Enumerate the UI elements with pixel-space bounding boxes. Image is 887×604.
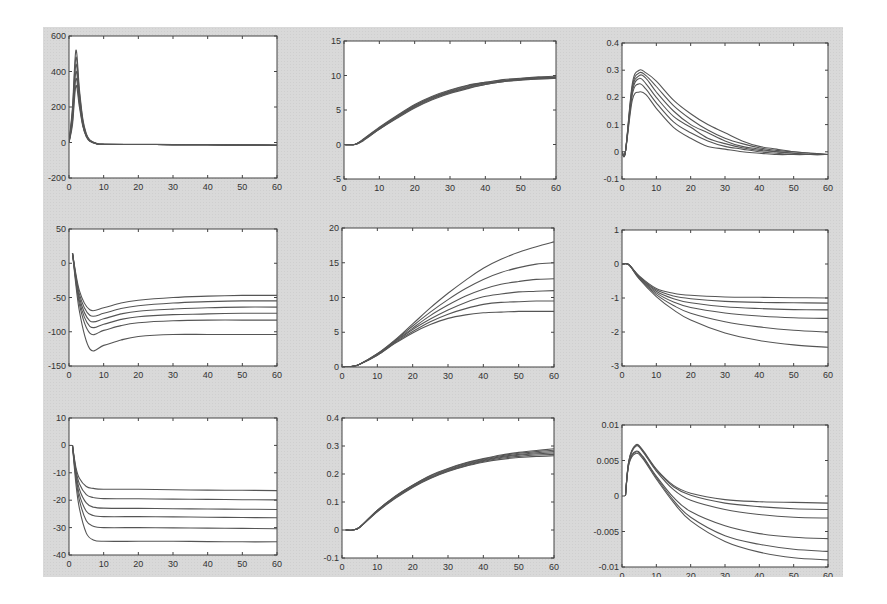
- y-tick-label: 0: [61, 440, 66, 450]
- y-tick-label: -0.1: [603, 174, 619, 184]
- x-tick-label: 60: [823, 183, 833, 193]
- y-tick-label: 0.005: [596, 456, 619, 466]
- y-tick-label: 0.1: [606, 120, 619, 130]
- x-tick-label: 30: [720, 571, 730, 577]
- y-tick-label: 15: [331, 36, 341, 46]
- y-tick-label: 10: [329, 293, 339, 303]
- x-tick-label: 0: [619, 183, 624, 193]
- x-tick-label: 40: [478, 562, 488, 572]
- y-tick-label: 15: [329, 258, 339, 268]
- x-tick-label: 40: [203, 559, 213, 569]
- y-tick-label: -0.1: [323, 553, 339, 563]
- y-tick-label: 0.1: [326, 497, 339, 507]
- y-tick-label: 0.4: [606, 38, 619, 48]
- x-tick-label: 0: [619, 571, 624, 577]
- x-tick-label: 0: [339, 562, 344, 572]
- subplot-5: 010203040506005101520: [329, 223, 559, 381]
- x-tick-label: 50: [514, 562, 524, 572]
- x-tick-label: 60: [272, 182, 282, 192]
- y-tick-label: -100: [48, 327, 66, 337]
- x-tick-label: 20: [408, 371, 418, 381]
- x-tick-label: 60: [823, 370, 833, 380]
- y-tick-label: 0: [334, 525, 339, 535]
- x-tick-label: 20: [133, 370, 143, 380]
- y-tick-label: -30: [53, 523, 66, 533]
- x-tick-label: 10: [372, 371, 382, 381]
- x-tick-label: 0: [66, 182, 71, 192]
- y-tick-label: -0.01: [598, 562, 619, 572]
- x-tick-label: 60: [549, 562, 559, 572]
- x-tick-label: 30: [168, 370, 178, 380]
- x-tick-label: 30: [720, 370, 730, 380]
- x-tick-label: 40: [480, 183, 490, 193]
- y-tick-label: 0: [614, 259, 619, 269]
- y-tick-label: -20: [53, 495, 66, 505]
- x-tick-label: 60: [272, 370, 282, 380]
- x-tick-label: 50: [237, 182, 247, 192]
- y-tick-label: 400: [51, 67, 66, 77]
- y-tick-label: 0: [614, 491, 619, 501]
- y-tick-label: 0.3: [606, 65, 619, 75]
- x-tick-label: 20: [410, 183, 420, 193]
- subplot-8: 0102030405060-0.100.10.20.30.4: [323, 413, 559, 572]
- x-tick-label: 50: [789, 370, 799, 380]
- x-tick-label: 20: [133, 559, 143, 569]
- x-tick-label: 40: [203, 370, 213, 380]
- x-tick-label: 40: [754, 571, 764, 577]
- x-tick-label: 10: [99, 559, 109, 569]
- subplot-2: 0102030405060-5051015: [331, 36, 561, 193]
- x-tick-label: 0: [341, 183, 346, 193]
- subplot-4: 0102030405060-150-100-50050: [48, 224, 282, 380]
- y-tick-label: -40: [53, 550, 66, 560]
- y-tick-label: 10: [56, 413, 66, 423]
- y-tick-label: 0.2: [326, 469, 339, 479]
- x-tick-label: 10: [99, 182, 109, 192]
- y-tick-label: 0: [614, 147, 619, 157]
- x-tick-label: 10: [651, 183, 661, 193]
- y-tick-label: -0.005: [593, 527, 619, 537]
- x-tick-label: 20: [408, 562, 418, 572]
- x-tick-label: 20: [133, 182, 143, 192]
- x-tick-label: 10: [372, 562, 382, 572]
- y-tick-label: -50: [53, 293, 66, 303]
- y-tick-label: 0: [61, 258, 66, 268]
- x-tick-label: 30: [168, 559, 178, 569]
- y-tick-label: 10: [331, 71, 341, 81]
- x-tick-label: 10: [651, 571, 661, 577]
- y-tick-label: -5: [333, 174, 341, 184]
- x-tick-label: 60: [272, 559, 282, 569]
- x-tick-label: 10: [99, 370, 109, 380]
- y-tick-label: 0: [61, 138, 66, 148]
- axes-box: [344, 41, 556, 179]
- y-tick-label: -10: [53, 468, 66, 478]
- x-tick-label: 0: [66, 370, 71, 380]
- x-tick-label: 50: [789, 183, 799, 193]
- x-tick-label: 50: [237, 370, 247, 380]
- x-tick-label: 60: [549, 371, 559, 381]
- y-tick-label: -200: [48, 173, 66, 183]
- y-tick-label: -2: [611, 327, 619, 337]
- y-tick-label: 20: [329, 223, 339, 233]
- x-tick-label: 60: [551, 183, 561, 193]
- x-tick-label: 30: [443, 371, 453, 381]
- y-tick-label: 0.2: [606, 92, 619, 102]
- y-tick-label: 600: [51, 31, 66, 41]
- x-tick-label: 40: [754, 183, 764, 193]
- x-tick-label: 30: [445, 183, 455, 193]
- x-tick-label: 40: [203, 182, 213, 192]
- subplot-6: 0102030405060-3-2-101: [611, 225, 833, 380]
- subplot-7: 0102030405060-40-30-20-10010: [53, 413, 282, 569]
- y-tick-label: 200: [51, 102, 66, 112]
- x-tick-label: 50: [789, 571, 799, 577]
- x-tick-label: 30: [168, 182, 178, 192]
- y-tick-label: 5: [336, 105, 341, 115]
- x-tick-label: 40: [478, 371, 488, 381]
- x-tick-label: 50: [514, 371, 524, 381]
- axes-box: [69, 418, 277, 555]
- axes-box: [622, 425, 828, 567]
- subplot-3: 0102030405060-0.100.10.20.30.4: [603, 38, 833, 193]
- y-tick-label: -3: [611, 361, 619, 371]
- y-tick-label: -1: [611, 293, 619, 303]
- x-tick-label: 50: [237, 559, 247, 569]
- axes-box: [69, 36, 277, 178]
